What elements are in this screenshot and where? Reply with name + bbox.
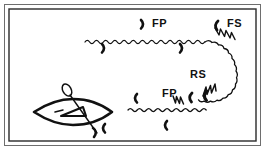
label-rs-right: RS — [190, 68, 206, 80]
label-fp-top: FP — [152, 17, 167, 29]
figure-frame-inner — [9, 9, 256, 141]
label-fp-lower: FP — [162, 87, 177, 99]
label-fs-top-right: FS — [227, 17, 242, 29]
figure-container: FP FS RS FP — [0, 0, 265, 150]
eddy-diagram: FP FS RS FP — [0, 0, 265, 150]
